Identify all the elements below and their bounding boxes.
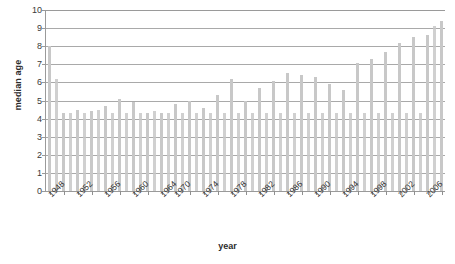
bar bbox=[160, 113, 163, 191]
bar bbox=[153, 111, 155, 191]
x-tick-mark bbox=[358, 191, 359, 195]
y-tick-label: 3 bbox=[37, 132, 42, 142]
bar bbox=[48, 46, 51, 191]
bar bbox=[132, 102, 135, 191]
x-tick-mark bbox=[246, 191, 247, 195]
bar bbox=[202, 108, 205, 191]
bar bbox=[258, 88, 261, 191]
y-tick-label: 5 bbox=[37, 96, 42, 106]
bar bbox=[286, 73, 289, 191]
x-tick-mark bbox=[64, 191, 65, 195]
bar bbox=[69, 113, 71, 191]
bar bbox=[419, 113, 421, 191]
bar bbox=[174, 104, 177, 191]
x-tick-mark bbox=[218, 191, 219, 195]
bar bbox=[62, 113, 65, 191]
bar bbox=[216, 95, 219, 191]
bar bbox=[356, 63, 359, 192]
bar bbox=[314, 77, 317, 191]
bar bbox=[125, 113, 127, 191]
bar bbox=[188, 101, 191, 192]
bar-series bbox=[46, 10, 445, 191]
bar bbox=[90, 111, 93, 191]
plot-area: 012345678910 bbox=[45, 10, 445, 192]
y-tick-label: 4 bbox=[37, 114, 42, 124]
bar bbox=[412, 37, 415, 191]
bar bbox=[384, 52, 387, 191]
x-tick-mark bbox=[190, 191, 191, 195]
bar bbox=[342, 90, 345, 191]
bar bbox=[363, 113, 365, 191]
bar bbox=[55, 79, 57, 191]
x-tick-mark bbox=[120, 191, 121, 195]
y-tick-label: 6 bbox=[37, 77, 42, 87]
x-tick-mark bbox=[442, 191, 443, 195]
x-tick-mark bbox=[386, 191, 387, 195]
y-tick-label: 8 bbox=[37, 41, 42, 51]
bar bbox=[223, 113, 225, 191]
y-tick-label: 7 bbox=[37, 59, 42, 69]
bar bbox=[97, 110, 99, 191]
x-tick-mark bbox=[414, 191, 415, 195]
y-tick-label: 10 bbox=[32, 5, 42, 15]
bar bbox=[76, 110, 79, 191]
bar bbox=[328, 84, 331, 191]
x-tick-mark bbox=[274, 191, 275, 195]
y-tick-label: 0 bbox=[37, 186, 42, 196]
x-tick-mark bbox=[330, 191, 331, 195]
x-tick-mark bbox=[92, 191, 93, 195]
bar bbox=[104, 106, 107, 191]
bar bbox=[146, 113, 149, 191]
bar bbox=[279, 113, 281, 191]
bar bbox=[370, 59, 373, 191]
bar bbox=[272, 81, 275, 191]
bar bbox=[391, 113, 393, 191]
bar bbox=[118, 99, 121, 191]
x-tick-mark bbox=[302, 191, 303, 195]
bar bbox=[433, 26, 435, 191]
bar bbox=[251, 113, 253, 191]
bar bbox=[440, 21, 443, 191]
bar bbox=[244, 101, 247, 192]
y-axis-title: median age bbox=[13, 45, 23, 125]
chart-container: median age 012345678910 1948195219561960… bbox=[0, 0, 455, 264]
bar bbox=[335, 113, 337, 191]
bar bbox=[230, 79, 233, 191]
bar bbox=[195, 113, 197, 191]
y-tick-label: 2 bbox=[37, 150, 42, 160]
bar bbox=[398, 43, 401, 191]
y-tick-label: 1 bbox=[37, 168, 42, 178]
y-tick-label: 9 bbox=[37, 23, 42, 33]
bar bbox=[307, 113, 309, 191]
bar bbox=[426, 35, 429, 191]
x-tick-mark bbox=[148, 191, 149, 195]
x-axis-title: year bbox=[0, 241, 455, 251]
bar bbox=[300, 75, 303, 191]
